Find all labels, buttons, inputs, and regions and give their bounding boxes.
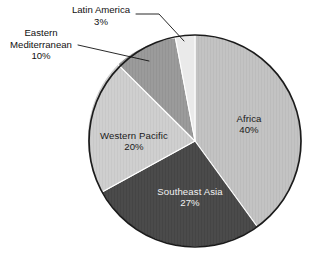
callout-label-eastern-mediterranean: Eastern Mediterranean 10%: [2, 27, 80, 62]
callout-label-eastern-mediterranean-name-line2: Mediterranean: [2, 39, 80, 51]
callout-label-latin-america-value: 3%: [58, 16, 144, 28]
slice-label-africa: Africa 40%: [218, 113, 280, 136]
slice-label-southeast-asia: Southeast Asia 27%: [137, 186, 243, 209]
callout-label-latin-america-name: Latin America: [58, 4, 144, 16]
callout-label-eastern-mediterranean-value: 10%: [2, 50, 80, 62]
slice-label-africa-value: 40%: [218, 124, 280, 135]
callout-label-eastern-mediterranean-name-line1: Eastern: [2, 27, 80, 39]
slice-label-southeast-asia-value: 27%: [137, 197, 243, 208]
callout-label-latin-america: Latin America 3%: [58, 4, 144, 27]
pie-chart-figure: Africa 40% Southeast Asia 27% Western Pa…: [0, 0, 309, 256]
slice-label-africa-name: Africa: [218, 113, 280, 124]
slice-label-southeast-asia-name: Southeast Asia: [137, 186, 243, 197]
slice-label-western-pacific-value: 20%: [82, 141, 186, 152]
slice-label-western-pacific-name: Western Pacific: [82, 130, 186, 141]
slice-label-western-pacific: Western Pacific 20%: [82, 130, 186, 153]
